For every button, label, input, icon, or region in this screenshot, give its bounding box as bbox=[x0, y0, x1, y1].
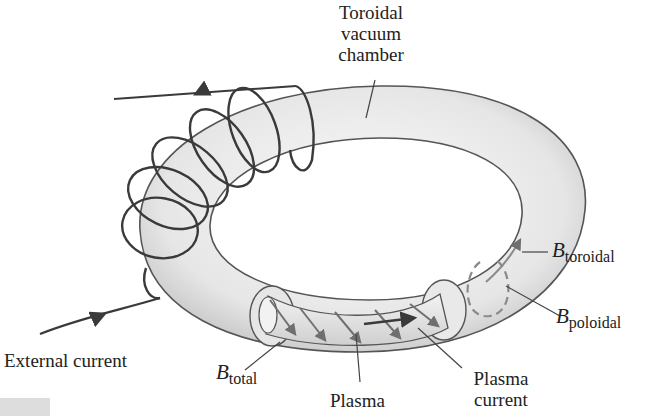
label-b-toroidal: Btoroidal bbox=[552, 240, 615, 262]
label-plasma-current: Plasma current bbox=[462, 368, 540, 410]
label-line: chamber bbox=[316, 44, 426, 65]
b-subscript: total bbox=[229, 370, 257, 387]
b-symbol: B bbox=[556, 304, 569, 328]
b-symbol: B bbox=[552, 238, 565, 262]
label-line: Plasma bbox=[462, 368, 540, 389]
b-subscript: poloidal bbox=[569, 314, 621, 331]
label-b-total: Btotal bbox=[216, 362, 257, 384]
label-line: Toroidal bbox=[316, 2, 426, 23]
label-external-current: External current bbox=[4, 350, 127, 371]
label-line: vacuum bbox=[316, 23, 426, 44]
toroidal-vacuum-chamber bbox=[140, 86, 586, 352]
label-plasma: Plasma bbox=[330, 390, 385, 411]
label-toroidal-vacuum-chamber: Toroidal vacuum chamber bbox=[316, 2, 426, 65]
corner-artifact bbox=[0, 398, 50, 416]
b-symbol: B bbox=[216, 360, 229, 384]
b-subscript: toroidal bbox=[565, 248, 615, 265]
label-b-poloidal: Bpoloidal bbox=[556, 306, 621, 328]
label-line: current bbox=[462, 389, 540, 410]
